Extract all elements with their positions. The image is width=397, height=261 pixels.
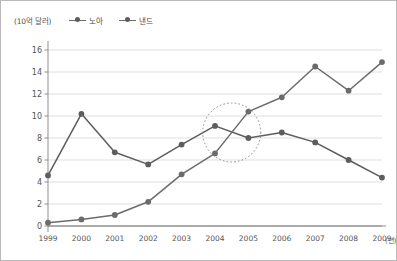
x-axis-tick: 2003: [172, 234, 191, 243]
y-axis-tick: 12: [20, 90, 42, 99]
x-axis-tick: 2001: [105, 234, 124, 243]
y-axis-tick: 2: [20, 200, 42, 209]
chart-canvas: [1, 1, 397, 261]
y-axis-tick: 14: [20, 68, 42, 77]
x-axis-tick: 2000: [72, 234, 91, 243]
x-axis-tick: 2004: [205, 234, 224, 243]
gridlines: [48, 50, 382, 226]
x-axis-tick: 2006: [272, 234, 291, 243]
x-axis-unit-label: (년): [385, 235, 396, 245]
chart-figure: (10억 달러) 노아 낸드 0246810121416 199920: [0, 0, 397, 261]
x-axis-tick: 2007: [306, 234, 325, 243]
y-axis-tick: 0: [20, 222, 42, 231]
series-layer: [45, 59, 385, 225]
x-axis-tick: 1999: [38, 234, 57, 243]
y-axis-tick: 8: [20, 134, 42, 143]
y-axis-tick: 4: [20, 178, 42, 187]
x-axis-tick: 2005: [239, 234, 258, 243]
x-axis-tick: 2008: [339, 234, 358, 243]
plot-area: 0246810121416 19992000200120022003200420…: [1, 1, 397, 261]
y-axis-tick: 6: [20, 156, 42, 165]
axis-lines: [45, 41, 387, 232]
y-axis-tick: 16: [20, 46, 42, 55]
y-axis-tick: 10: [20, 112, 42, 121]
x-axis-tick: 2002: [139, 234, 158, 243]
